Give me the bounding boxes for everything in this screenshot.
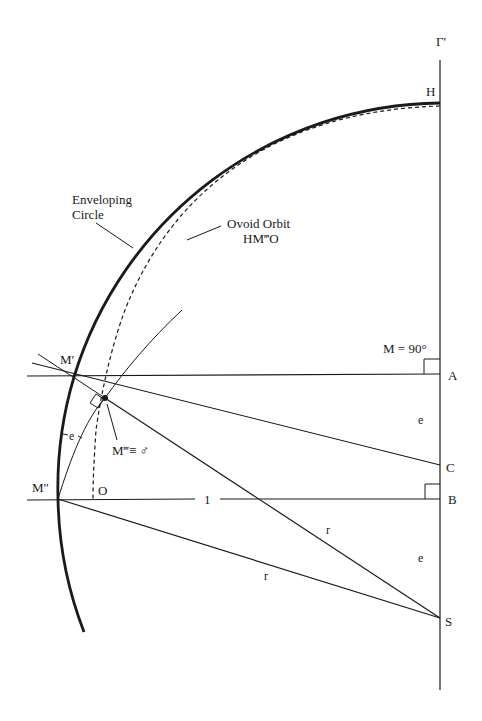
label-angle: M = 90° bbox=[383, 341, 427, 356]
label-r-lower: r bbox=[264, 569, 268, 583]
thin-arc bbox=[58, 310, 182, 499]
label-B: B bbox=[448, 492, 457, 507]
label-O: O bbox=[98, 483, 107, 498]
leader-ovoid bbox=[187, 226, 221, 240]
label-one: 1 bbox=[204, 492, 211, 507]
label-A: A bbox=[448, 368, 458, 383]
annotation-ovoid-2: HM‴O bbox=[243, 231, 279, 246]
orbit-diagram: Γ′ H A C B S O M′ M″ M‴≡ ♂ M = 90° 1 e e… bbox=[0, 0, 482, 721]
label-axis: Γ′ bbox=[436, 34, 447, 49]
line-MA bbox=[27, 374, 440, 376]
label-e-left: e bbox=[69, 429, 74, 443]
label-C: C bbox=[446, 460, 455, 475]
right-angle-A bbox=[424, 359, 440, 374]
label-M-triple-prime: M‴≡ ♂ bbox=[112, 443, 149, 458]
label-r-upper: r bbox=[326, 523, 330, 537]
leader-enveloping bbox=[96, 223, 133, 248]
annotation-enveloping-1: Enveloping bbox=[72, 192, 132, 207]
label-e-AC: e bbox=[418, 413, 423, 427]
line-M2B-left bbox=[27, 499, 195, 500]
line-Mdouble-S bbox=[58, 499, 440, 618]
annotation-enveloping-2: Circle bbox=[72, 207, 104, 222]
label-e-BS: e bbox=[418, 551, 423, 565]
e-tick-left bbox=[63, 434, 68, 435]
mars-point bbox=[102, 395, 108, 401]
line-Mtriple-S bbox=[105, 398, 440, 618]
ovoid-orbit bbox=[93, 106, 440, 499]
annotation-ovoid-1: Ovoid Orbit bbox=[227, 216, 291, 231]
right-angle-B bbox=[425, 484, 440, 499]
label-H: H bbox=[426, 84, 435, 99]
label-M-prime: M′ bbox=[60, 352, 75, 367]
leader-mars bbox=[107, 404, 117, 440]
label-S: S bbox=[445, 614, 452, 629]
enveloping-circle bbox=[58, 103, 440, 632]
label-M-double-prime: M″ bbox=[32, 480, 49, 495]
